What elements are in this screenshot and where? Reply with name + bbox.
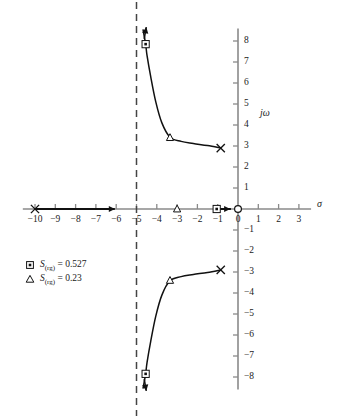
sensitivity-marker-square [142,370,149,377]
x-axis-label: σ [317,199,322,209]
locus-arrow-real-right [224,206,230,212]
y-tick-label: −1 [244,225,254,235]
legend-item: S(rg) = 0.527 [25,259,87,271]
legend-triangle-icon [25,274,35,284]
x-tick-label: −7 [91,215,101,225]
y-tick-label: −7 [244,351,254,361]
sensitivity-marker-square [142,41,149,48]
legend-subscript: (rg) [45,278,55,286]
locus-branch [143,270,221,389]
locus-arrow-real-left [109,206,115,212]
x-tick-label: −9 [50,215,60,225]
y-axis-label: jω [260,108,270,118]
y-tick-label: −2 [244,246,254,256]
sensitivity-marker-square [213,205,220,212]
y-tick-label: 5 [244,99,249,109]
legend-item: S(rg) = 0.23 [25,273,82,285]
x-tick-label: −6 [111,215,121,225]
y-tick-label: −8 [244,372,254,382]
y-tick-label: −3 [244,267,254,277]
y-tick-label: −4 [244,288,254,298]
root-locus-plot: −10−9−8−7−6−5−4−3−2−1012387654321−1−2−3−… [0,0,345,418]
x-tick-label: 2 [276,215,281,225]
y-tick-label: −5 [244,309,254,319]
x-tick-label: 0 [236,215,241,225]
y-tick-label: 3 [244,141,249,151]
legend-value: 0.23 [65,273,82,283]
y-tick-label: 4 [244,120,249,130]
x-tick-label: −4 [152,215,162,225]
x-tick-label: −2 [192,215,202,225]
x-tick-label: −3 [172,215,182,225]
zero-marker-o [235,206,242,213]
y-tick-label: −6 [244,330,254,340]
legend-equals: = [55,273,65,283]
legend-subscript: (rg) [45,264,55,272]
x-tick-label: 1 [256,215,261,225]
legend-square-icon [25,260,35,270]
legend-label: S(rg) = 0.527 [40,259,87,272]
locus-branch [143,29,221,148]
legend-equals: = [55,259,65,269]
y-tick-label: 7 [244,57,249,67]
legend-label: S(rg) = 0.23 [40,273,82,286]
legend-value: 0.527 [65,259,86,269]
y-tick-label: 8 [244,36,249,46]
x-tick-label: −8 [71,215,81,225]
x-tick-label: −5 [131,215,141,225]
y-tick-label: 1 [244,183,249,193]
x-tick-label: 3 [297,215,302,225]
plot-canvas [0,0,345,418]
x-tick-label: −10 [28,215,43,225]
y-tick-label: 2 [244,162,249,172]
x-tick-label: −1 [213,215,223,225]
y-tick-label: 6 [244,78,249,88]
